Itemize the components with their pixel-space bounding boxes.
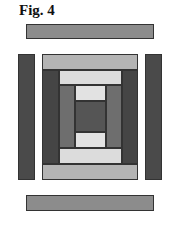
core-top-light [75, 85, 106, 101]
inner-left-medium [59, 85, 75, 148]
inner-right-medium [106, 85, 122, 148]
block-right-dark [122, 70, 138, 164]
top-bar [26, 24, 154, 39]
core-bottom-light [75, 132, 106, 148]
figure-title: Fig. 4 [19, 2, 55, 19]
right-side-bar [145, 54, 162, 180]
inner-bottom-light [59, 148, 122, 164]
left-side-bar [18, 54, 35, 180]
inner-top-light [59, 70, 122, 85]
bottom-bar [26, 195, 154, 211]
block-left-dark [42, 70, 59, 164]
block-top-strip [42, 54, 138, 70]
block-bottom-strip [42, 164, 138, 180]
core-center-dark [75, 101, 106, 132]
